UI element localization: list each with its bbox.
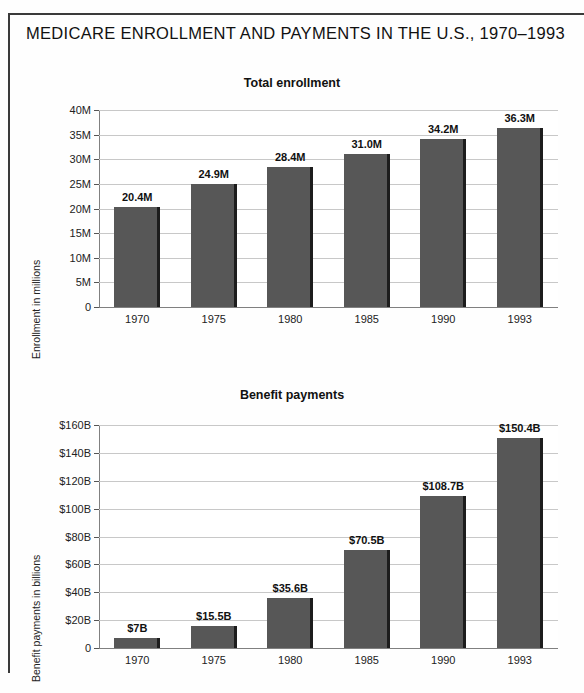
bar-value-label: 31.0M: [351, 138, 382, 150]
x-tick-label: 1985: [355, 654, 379, 666]
y-tick-mark: [94, 453, 99, 454]
bar: [267, 167, 313, 307]
y-tick-label: $120B: [59, 475, 91, 487]
plot-area: 05M10M15M20M25M30M35M40M20.4M197024.9M19…: [99, 110, 558, 307]
frame-top-rule: [8, 13, 584, 15]
bar: [191, 184, 237, 307]
gridline: [99, 592, 558, 593]
y-axis-title: Enrollment in millions: [30, 260, 42, 359]
x-tick-label: 1970: [125, 313, 149, 325]
bar-value-label: $15.5B: [196, 610, 231, 622]
gridline: [99, 425, 558, 426]
gridline: [99, 233, 558, 234]
y-tick-mark: [94, 509, 99, 510]
gridline: [99, 209, 558, 210]
bar: [344, 154, 390, 307]
y-tick-label: $80B: [65, 531, 91, 543]
bar-value-label: 20.4M: [122, 191, 153, 203]
x-tick-label: 1975: [202, 313, 226, 325]
y-tick-mark: [94, 620, 99, 621]
bar-value-label: 28.4M: [275, 151, 306, 163]
y-tick-label: 40M: [70, 104, 91, 116]
bar-value-label: $35.6B: [273, 582, 308, 594]
gridline: [99, 110, 558, 111]
figure-page: MEDICARE ENROLLMENT AND PAYMENTS IN THE …: [0, 0, 584, 693]
chart-total-enrollment: Total enrollment Enrollment in millions …: [0, 76, 584, 366]
bar: [420, 496, 466, 648]
y-tick-label: 15M: [70, 227, 91, 239]
y-tick-mark: [94, 258, 99, 259]
y-tick-mark: [94, 209, 99, 210]
x-tick-label: 1970: [125, 654, 149, 666]
y-tick-mark: [94, 425, 99, 426]
x-tick-label: 1993: [508, 654, 532, 666]
gridline: [99, 184, 558, 185]
bar: [114, 638, 160, 648]
bar-value-label: 36.3M: [504, 112, 535, 124]
y-tick-label: $40B: [65, 586, 91, 598]
x-tick-label: 1993: [508, 313, 532, 325]
bar-value-label: $7B: [127, 622, 147, 634]
x-tick-label: 1975: [202, 654, 226, 666]
y-tick-mark: [94, 564, 99, 565]
y-tick-label: 0: [85, 301, 91, 313]
x-axis-line: [99, 648, 558, 649]
plot-area: 0$20B$40B$60B$80B$100B$120B$140B$160B$7B…: [99, 425, 558, 648]
y-axis-title: Benefit payments in billions: [30, 555, 42, 682]
gridline: [99, 135, 558, 136]
y-tick-mark: [94, 233, 99, 234]
gridline: [99, 453, 558, 454]
gridline: [99, 509, 558, 510]
y-tick-label: $140B: [59, 447, 91, 459]
gridline: [99, 282, 558, 283]
x-tick-label: 1980: [278, 654, 302, 666]
y-tick-label: 30M: [70, 153, 91, 165]
chart-title: Benefit payments: [0, 388, 584, 402]
bar: [497, 438, 543, 648]
bar: [191, 626, 237, 648]
bar: [497, 128, 543, 307]
gridline: [99, 481, 558, 482]
bar-value-label: 24.9M: [198, 168, 229, 180]
bar: [344, 550, 390, 648]
y-tick-mark: [94, 537, 99, 538]
y-tick-label: 25M: [70, 178, 91, 190]
bar-value-label: 34.2M: [428, 123, 459, 135]
gridline: [99, 258, 558, 259]
y-tick-label: $160B: [59, 419, 91, 431]
x-tick-label: 1990: [431, 654, 455, 666]
y-tick-label: $100B: [59, 503, 91, 515]
gridline: [99, 159, 558, 160]
y-tick-label: $20B: [65, 614, 91, 626]
bar-value-label: $70.5B: [349, 534, 384, 546]
y-tick-mark: [94, 159, 99, 160]
y-tick-label: 5M: [76, 276, 91, 288]
y-tick-mark: [94, 135, 99, 136]
y-tick-label: $60B: [65, 558, 91, 570]
y-tick-mark: [94, 592, 99, 593]
y-tick-mark: [94, 110, 99, 111]
y-tick-label: 10M: [70, 252, 91, 264]
y-tick-label: 35M: [70, 129, 91, 141]
y-tick-mark: [94, 184, 99, 185]
x-axis-line: [99, 307, 558, 308]
bar: [267, 598, 313, 648]
x-tick-label: 1990: [431, 313, 455, 325]
y-tick-label: 0: [85, 642, 91, 654]
page-title: MEDICARE ENROLLMENT AND PAYMENTS IN THE …: [26, 24, 565, 43]
bar: [114, 207, 160, 307]
gridline: [99, 620, 558, 621]
bar: [420, 139, 466, 307]
bar-value-label: $150.4B: [499, 422, 541, 434]
chart-benefit-payments: Benefit payments Benefit payments in bil…: [0, 388, 584, 688]
bar-value-label: $108.7B: [422, 480, 464, 492]
x-tick-label: 1980: [278, 313, 302, 325]
y-tick-label: 20M: [70, 203, 91, 215]
y-tick-mark: [94, 481, 99, 482]
y-tick-mark: [94, 282, 99, 283]
x-tick-label: 1985: [355, 313, 379, 325]
gridline: [99, 537, 558, 538]
chart-title: Total enrollment: [0, 76, 584, 90]
gridline: [99, 564, 558, 565]
